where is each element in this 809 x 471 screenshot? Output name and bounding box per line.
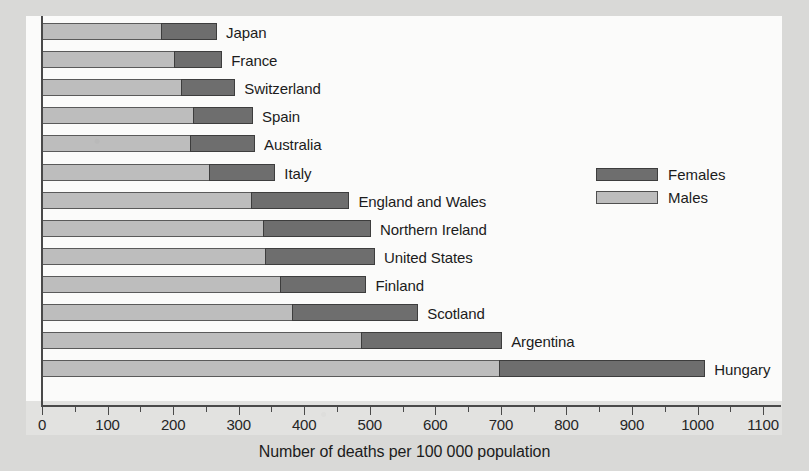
bar-segment-females [265, 248, 375, 265]
x-tick-450 [337, 407, 338, 412]
bar-segment-females [174, 51, 222, 68]
x-tick-250 [206, 407, 207, 412]
bar-segment-females [190, 135, 255, 152]
x-tick-label-0: 0 [38, 416, 46, 433]
x-tick-label-200: 200 [161, 416, 185, 433]
x-tick-label-1000: 1000 [681, 416, 714, 433]
category-label-argentina: Argentina [511, 333, 574, 350]
x-tick-600 [435, 407, 436, 415]
bar-segment-males [42, 107, 194, 124]
x-tick-label-900: 900 [620, 416, 644, 433]
y-axis-line [41, 16, 43, 406]
x-tick-500 [370, 407, 371, 415]
legend-swatch-males-icon [596, 191, 658, 204]
category-label-hungary: Hungary [714, 361, 770, 378]
bar-row [42, 220, 371, 237]
category-label-england-and-wales: England and Wales [358, 193, 486, 210]
x-tick-50 [75, 407, 76, 412]
bar-row [42, 107, 253, 124]
category-label-northern-ireland: Northern Ireland [380, 221, 487, 238]
bar-segment-males [42, 360, 500, 377]
x-tick-label-800: 800 [554, 416, 578, 433]
category-label-switzerland: Switzerland [244, 80, 320, 97]
x-tick-200 [173, 407, 174, 415]
x-tick-850 [599, 407, 600, 412]
bar-segment-males [42, 23, 162, 40]
legend: Females Males [596, 165, 726, 211]
bar-segment-males [42, 220, 264, 237]
x-tick-800 [566, 407, 567, 415]
x-tick-150 [140, 407, 141, 412]
legend-swatch-females-icon [596, 168, 658, 181]
x-tick-1100 [763, 407, 764, 415]
x-tick-1000 [698, 407, 699, 415]
bar-row [42, 360, 705, 377]
bar-segment-females [251, 192, 349, 209]
bar-row [42, 332, 502, 349]
x-tick-400 [304, 407, 305, 415]
x-tick-label-400: 400 [292, 416, 316, 433]
bar-row [42, 164, 275, 181]
x-tick-700 [501, 407, 502, 415]
bar-segment-females [280, 276, 366, 293]
bar-segment-females [263, 220, 371, 237]
bar-segment-males [42, 332, 362, 349]
x-tick-1050 [730, 407, 731, 412]
bar-row [42, 51, 222, 68]
x-tick-950 [665, 407, 666, 412]
category-label-united-states: United States [384, 249, 473, 266]
legend-item-females: Females [596, 165, 726, 184]
bar-segment-females [181, 79, 235, 96]
x-axis-line [41, 405, 781, 407]
x-tick-350 [271, 407, 272, 412]
bar-row [42, 276, 366, 293]
bar-chart: 010020030040050060070080090010001100 Jap… [0, 0, 809, 471]
legend-item-males: Males [596, 188, 726, 207]
x-tick-550 [403, 407, 404, 412]
bar-segment-females [209, 164, 276, 181]
bar-segment-males [42, 79, 182, 96]
bar-segment-males [42, 135, 191, 152]
bar-row [42, 248, 375, 265]
legend-label-males: Males [668, 189, 708, 206]
bar-segment-females [193, 107, 253, 124]
x-tick-300 [239, 407, 240, 415]
x-axis-title: Number of deaths per 100 000 population [0, 443, 809, 461]
x-tick-100 [108, 407, 109, 415]
x-tick-750 [534, 407, 535, 412]
x-tick-label-300: 300 [226, 416, 250, 433]
bar-segment-females [161, 23, 217, 40]
category-label-scotland: Scotland [427, 305, 485, 322]
category-label-spain: Spain [262, 108, 300, 125]
bar-segment-females [361, 332, 502, 349]
bar-segment-males [42, 304, 293, 321]
bar-row [42, 304, 418, 321]
bar-segment-males [42, 192, 252, 209]
category-label-italy: Italy [284, 165, 311, 182]
legend-label-females: Females [668, 166, 726, 183]
bar-segment-females [292, 304, 418, 321]
x-tick-label-700: 700 [489, 416, 513, 433]
category-label-australia: Australia [264, 136, 321, 153]
x-tick-650 [468, 407, 469, 412]
bar-segment-males [42, 276, 281, 293]
bar-segment-males [42, 164, 210, 181]
x-tick-0 [42, 407, 43, 415]
category-label-france: France [231, 52, 277, 69]
bar-row [42, 23, 217, 40]
bar-row [42, 192, 349, 209]
x-tick-900 [632, 407, 633, 415]
x-tick-label-100: 100 [95, 416, 119, 433]
bar-segment-females [499, 360, 706, 377]
bar-row [42, 79, 235, 96]
bar-segment-males [42, 51, 175, 68]
x-tick-label-500: 500 [358, 416, 382, 433]
category-label-japan: Japan [226, 24, 266, 41]
category-label-finland: Finland [375, 277, 424, 294]
x-tick-label-1100: 1100 [747, 416, 778, 433]
bar-row [42, 135, 255, 152]
x-tick-label-600: 600 [423, 416, 447, 433]
bar-segment-males [42, 248, 266, 265]
